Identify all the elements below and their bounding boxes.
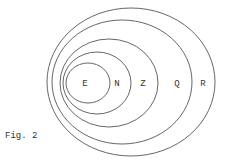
set-z-label: Z [140, 79, 146, 89]
set-e-ellipse [66, 63, 110, 103]
figure-caption: Fig. 2 [5, 131, 37, 141]
set-r-label: R [200, 79, 206, 89]
set-q-label: Q [174, 79, 179, 89]
set-e-label: E [82, 79, 87, 89]
set-n-label: N [114, 79, 119, 89]
venn-diagram: RQZNE [0, 0, 228, 167]
set-n-ellipse [63, 52, 131, 114]
